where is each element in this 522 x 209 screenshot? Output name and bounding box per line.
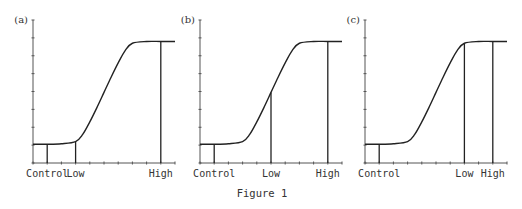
marker-label-high: High <box>149 168 173 179</box>
marker-label-high: High <box>481 168 505 179</box>
marker-label-control: Control <box>26 168 68 179</box>
marker-label-low: Low <box>455 168 474 179</box>
marker-label-control: Control <box>358 168 400 179</box>
marker-label-low: Low <box>67 168 86 179</box>
panel-a: (a)ControlLowHigh <box>14 14 175 179</box>
panel-label: (c) <box>347 14 361 25</box>
figure-caption: Figure 1 <box>237 187 288 199</box>
panel-c: (c)ControlLowHigh <box>347 14 507 179</box>
marker-label-low: Low <box>262 168 281 179</box>
panel-label: (b) <box>181 14 195 25</box>
marker-label-control: Control <box>193 168 235 179</box>
figure-1: (a)ControlLowHigh(b)ControlLowHigh(c)Con… <box>0 0 522 209</box>
marker-label-high: High <box>316 168 340 179</box>
response-curve <box>33 41 175 144</box>
panel-label: (a) <box>14 14 28 25</box>
panel-b: (b)ControlLowHigh <box>181 14 342 179</box>
response-curve <box>365 41 507 144</box>
